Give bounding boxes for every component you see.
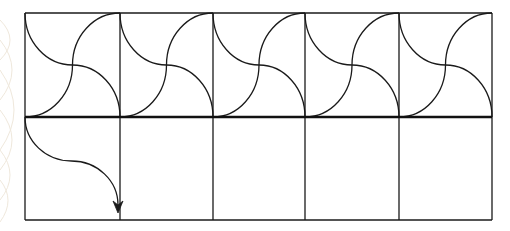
tile-curve-b <box>120 13 213 117</box>
tile-curve-b <box>305 13 399 117</box>
tile-curve-b <box>399 13 492 117</box>
diagram-canvas <box>0 0 510 231</box>
background-watermark <box>0 0 40 231</box>
tiling-diagram <box>0 0 510 231</box>
tile-curve-b <box>213 13 305 117</box>
